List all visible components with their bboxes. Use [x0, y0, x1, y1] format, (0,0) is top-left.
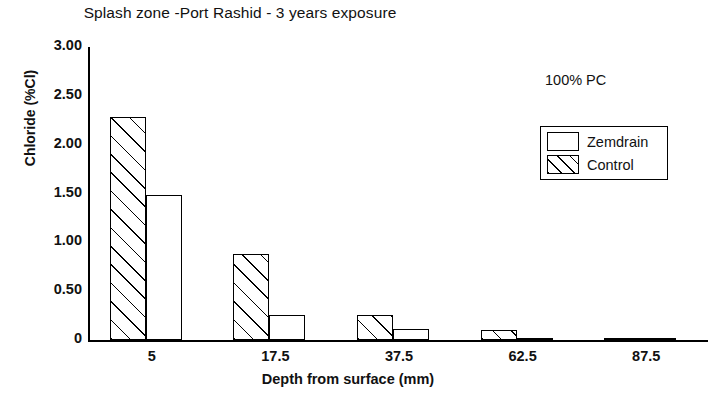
- bar-control-5: [110, 117, 146, 340]
- x-tick-label: 37.5: [359, 348, 439, 364]
- y-tick-label: 2.50: [34, 86, 82, 102]
- bar-control-37.5: [357, 315, 393, 340]
- y-tick-label: 2.00: [34, 135, 82, 151]
- y-axis-label: Chloride (%Cl): [22, 28, 38, 208]
- legend-label-control: Control: [587, 157, 634, 173]
- y-axis-line: [88, 47, 90, 341]
- legend-swatch-zemdrain-icon: [547, 132, 579, 151]
- bar-zemdrain-5: [146, 195, 182, 340]
- bar-zemdrain-37.5: [393, 329, 429, 340]
- x-axis-line: [88, 340, 708, 342]
- x-tick-label: 62.5: [483, 348, 563, 364]
- x-axis-label: Depth from surface (mm): [88, 371, 608, 387]
- y-tick-label: 0.50: [34, 281, 82, 297]
- chart-figure: Splash zone -Port Rashid - 3 years expos…: [0, 0, 715, 416]
- y-tick-label: 1.50: [34, 184, 82, 200]
- legend-label-zemdrain: Zemdrain: [587, 134, 648, 150]
- y-tick-label: 0: [34, 330, 82, 346]
- annotation-100-percent-pc: 100% PC: [545, 72, 606, 88]
- y-tick-label: 3.00: [34, 37, 82, 53]
- legend-item-control: Control: [541, 153, 667, 176]
- x-tick-label: 5: [112, 348, 192, 364]
- bar-zemdrain-17.5: [269, 315, 305, 340]
- chart-title: Splash zone -Port Rashid - 3 years expos…: [0, 4, 480, 22]
- chart-legend: Zemdrain Control: [540, 126, 668, 180]
- x-tick-label: 17.5: [235, 348, 315, 364]
- bar-control-17.5: [233, 254, 269, 340]
- bar-control-62.5: [481, 330, 517, 340]
- legend-item-zemdrain: Zemdrain: [541, 130, 667, 153]
- y-tick-label: 1.00: [34, 232, 82, 248]
- x-tick-label: 87.5: [606, 348, 686, 364]
- legend-swatch-control-icon: [547, 155, 579, 174]
